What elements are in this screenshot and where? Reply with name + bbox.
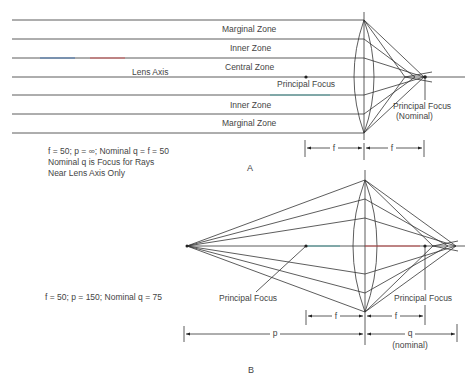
zone-label-inner-bottom: Inner Zone	[230, 100, 271, 110]
dimension-f2-b: f	[395, 311, 397, 321]
dimension-q-nominal: (nominal)	[392, 340, 427, 350]
note-line: Near Lens Axis Only	[48, 168, 169, 179]
lens-diagram-svg	[0, 0, 473, 385]
dimension-f1-a: f	[333, 143, 335, 153]
figure-b-note: f = 50; p = 150; Nominal q = 75	[45, 292, 162, 302]
zone-label-marginal-top: Marginal Zone	[222, 24, 276, 34]
dimension-p: p	[273, 328, 278, 338]
lens-axis-label: Lens Axis	[132, 67, 168, 77]
principal-focus-nominal-label: Principal Focus	[393, 101, 451, 111]
figure-a-notes: f = 50; p = ∞; Nominal q = f = 50 Nomina…	[48, 146, 169, 179]
dimension-f2-a: f	[391, 143, 393, 153]
zone-label-inner-top: Inner Zone	[230, 43, 271, 53]
zone-label-marginal-bottom: Marginal Zone	[222, 118, 276, 128]
figure-caption-a: A	[247, 163, 253, 173]
note-line: Nominal q is Focus for Rays	[48, 157, 169, 168]
figure-caption-b: B	[248, 365, 254, 375]
dimension-f1-b: f	[335, 311, 337, 321]
dimension-q: q	[408, 328, 413, 338]
note-line: f = 50; p = ∞; Nominal q = f = 50	[48, 146, 169, 157]
principal-focus-right-label: Principal Focus	[394, 293, 452, 303]
principal-focus-label-a: Principal Focus	[277, 79, 335, 89]
principal-focus-left-label: Principal Focus	[219, 293, 277, 303]
zone-label-central: Central Zone	[225, 62, 274, 72]
nominal-label: (Nominal)	[396, 111, 433, 121]
